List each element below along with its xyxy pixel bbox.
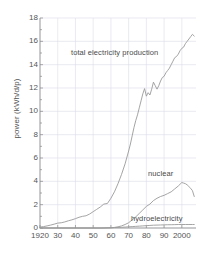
- series-label-nuclear: nuclear: [148, 169, 173, 178]
- data-series: [40, 34, 194, 228]
- series-label-hydroelectricity: hydroelectricity: [131, 214, 183, 223]
- series-label-total-electricity-production: total electricity production: [71, 48, 158, 57]
- chart-container: power (kWh/d/p) 024681012141618 19203040…: [0, 0, 205, 253]
- series-line-total-electricity-production: [40, 34, 194, 227]
- series-line-hydroelectricity: [40, 225, 194, 229]
